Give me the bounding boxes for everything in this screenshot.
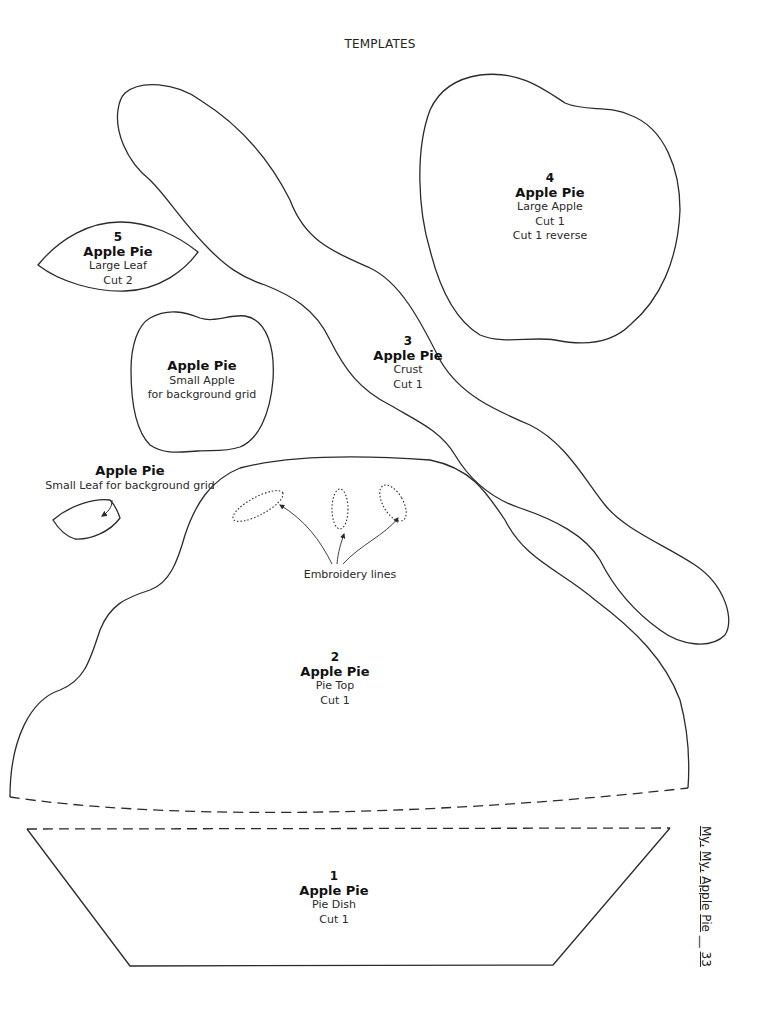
label-crust: 3 Apple Pie Crust Cut 1 [358, 334, 458, 392]
template-piece: Small Apple [122, 374, 282, 389]
template-piece: Crust [358, 363, 458, 378]
template-name: Apple Pie [68, 245, 168, 260]
small-leaf-outline [53, 500, 120, 539]
embroidery-ellipse-middle [332, 489, 348, 529]
book-title-word: My, [699, 826, 713, 847]
template-name: Apple Pie [122, 359, 282, 374]
template-piece: Small Leaf for background grid [20, 479, 240, 494]
template-instruction: for background grid [122, 388, 282, 403]
pie-top-outline [10, 457, 689, 797]
template-number: 4 [490, 171, 610, 186]
template-instruction: Cut 1 [358, 378, 458, 393]
embroidery-arrow-left [280, 505, 332, 564]
book-title-word: My, [699, 851, 713, 872]
template-piece: Large Leaf [68, 259, 168, 274]
page-title: TEMPLATES [0, 37, 760, 51]
embroidery-lines-label: Embroidery lines [280, 568, 420, 581]
pie-dish-fold-line [27, 828, 670, 829]
template-number: 5 [68, 230, 168, 245]
embroidery-arrow-middle [337, 534, 344, 564]
page-footer: My, My, Apple Pie __ 33 [695, 826, 713, 976]
template-instruction: Cut 1 [284, 913, 384, 928]
template-name: Apple Pie [284, 884, 384, 899]
pie-top-fold-line [10, 788, 688, 812]
template-number: 2 [285, 650, 385, 665]
template-number: 3 [358, 334, 458, 349]
template-name: Apple Pie [490, 186, 610, 201]
template-name: Apple Pie [20, 464, 240, 479]
book-title-word: Apple [699, 876, 713, 910]
template-name: Apple Pie [358, 349, 458, 364]
page-number: 33 [699, 952, 713, 967]
template-instruction: Cut 1 reverse [490, 229, 610, 244]
label-large-leaf: 5 Apple Pie Large Leaf Cut 2 [68, 230, 168, 288]
label-small-apple: Apple Pie Small Apple for background gri… [122, 359, 282, 403]
template-name: Apple Pie [285, 665, 385, 680]
book-title-word: Pie [699, 914, 713, 932]
template-instruction: Cut 1 [285, 694, 385, 709]
template-piece: Pie Top [285, 679, 385, 694]
template-piece: Large Apple [490, 200, 610, 215]
template-number: 1 [284, 869, 384, 884]
template-piece: Pie Dish [284, 898, 384, 913]
template-instruction: Cut 1 [490, 215, 610, 230]
label-pie-top: 2 Apple Pie Pie Top Cut 1 [285, 650, 385, 708]
label-large-apple: 4 Apple Pie Large Apple Cut 1 Cut 1 reve… [490, 171, 610, 244]
template-page: TEMPLATES 4 Apple Pie Large Apple Cut 1 … [0, 0, 760, 1031]
label-small-leaf: Apple Pie Small Leaf for background grid [20, 464, 240, 493]
small-leaf-arrow [102, 500, 112, 516]
template-instruction: Cut 2 [68, 274, 168, 289]
label-pie-dish: 1 Apple Pie Pie Dish Cut 1 [284, 869, 384, 927]
embroidery-arrow-right [343, 518, 398, 564]
embroidery-ellipse-right [374, 481, 411, 526]
footer-separator: __ [699, 936, 713, 948]
